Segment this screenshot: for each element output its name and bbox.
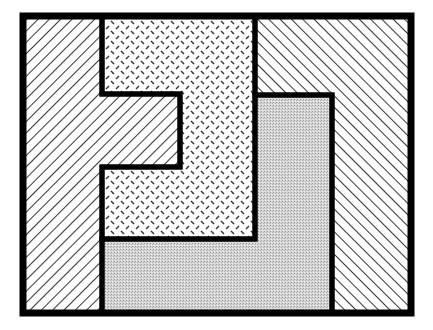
tiling-diagram: [0, 0, 433, 330]
